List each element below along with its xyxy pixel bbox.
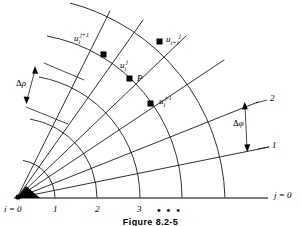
ray-label-2-leader <box>256 100 267 103</box>
figure-caption: Figure 8.2-5 <box>0 217 301 226</box>
node-marker-u-i-j-plus-1 <box>101 52 107 58</box>
node-label-sub: i+1 <box>171 40 180 46</box>
ray-label-2: 2 <box>270 94 275 103</box>
node-label-sub: i <box>125 66 127 72</box>
node-label-u-i-j-minus-1: uij-1 <box>159 95 172 108</box>
axis-label-j0: j = 0 <box>274 191 292 200</box>
delta-rho-leader-upper <box>44 63 84 80</box>
node-label-sub: i <box>164 102 166 108</box>
delta-rho-dimension-line <box>27 70 35 100</box>
bottom-tick-1: 1 <box>53 205 58 214</box>
delta-phi-label: Δφ <box>233 119 244 128</box>
node-label-sup: j <box>179 33 181 39</box>
node-label-sup: j <box>126 59 128 65</box>
node-marker-u-i-j-minus-1 <box>148 101 154 107</box>
node-label-sup: j+1 <box>80 32 89 38</box>
axis-label-j-eq: = 0 <box>277 190 292 200</box>
node-label-sub: i <box>79 39 81 45</box>
ray-j2 <box>17 102 258 198</box>
delta-phi-dimension-line <box>245 106 247 148</box>
ray-label-1: 1 <box>272 141 277 150</box>
node-label-u-i-j-plus-1: uij+1 <box>74 32 89 45</box>
node-label-point-p: P <box>137 74 143 83</box>
circular-arcs <box>23 3 225 198</box>
ray-label-1-leader <box>258 147 269 149</box>
rho-symbol: ρ <box>22 78 26 88</box>
ray-j5 <box>17 20 143 198</box>
point-p-base: P <box>137 73 143 83</box>
node-marker-u-i-j <box>127 76 133 82</box>
node-marker-u-i-plus-1-j <box>157 39 163 45</box>
delta-rho-arrowhead-down <box>24 97 30 104</box>
axis-label-i0: i = 0 <box>4 205 22 214</box>
delta-rho-leader-lower <box>26 107 68 124</box>
bottom-tick-3: 3 <box>137 205 142 214</box>
axis-label-i-eq: = 0 <box>7 204 22 214</box>
node-label-u-i-j: uij <box>120 59 128 72</box>
delta-rho-arrowhead-up <box>32 66 38 74</box>
delta-phi-arrowhead-up <box>242 102 248 110</box>
phi-symbol: φ <box>239 118 244 128</box>
delta-phi-annotation <box>245 106 247 148</box>
figure-container: uij+1 ui+1j uij uij-1 P Δρ Δφ 2 1 j = 0 … <box>0 0 301 226</box>
bottom-ellipsis: • • • <box>157 204 182 216</box>
delta-rho-label: Δρ <box>16 79 26 88</box>
node-label-u-i-plus-1-j: ui+1j <box>166 33 181 46</box>
origin-point <box>15 194 20 199</box>
ray-j6 <box>17 11 110 198</box>
bottom-tick-2: 2 <box>95 205 100 214</box>
node-markers <box>101 39 163 107</box>
node-label-sup: j-1 <box>165 95 172 101</box>
polar-grid-diagram <box>0 0 301 226</box>
